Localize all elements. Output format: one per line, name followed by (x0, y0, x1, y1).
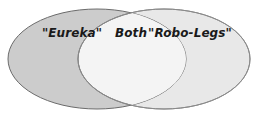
venn-label-intersection: Both (115, 26, 147, 40)
venn-diagram-figure: "Eureka" Both "Robo-Legs" (0, 0, 260, 118)
venn-label-right: "Robo-Legs" (148, 26, 232, 40)
venn-diagram-canvas: "Eureka" Both "Robo-Legs" (0, 0, 260, 118)
venn-label-left: "Eureka" (42, 26, 102, 40)
